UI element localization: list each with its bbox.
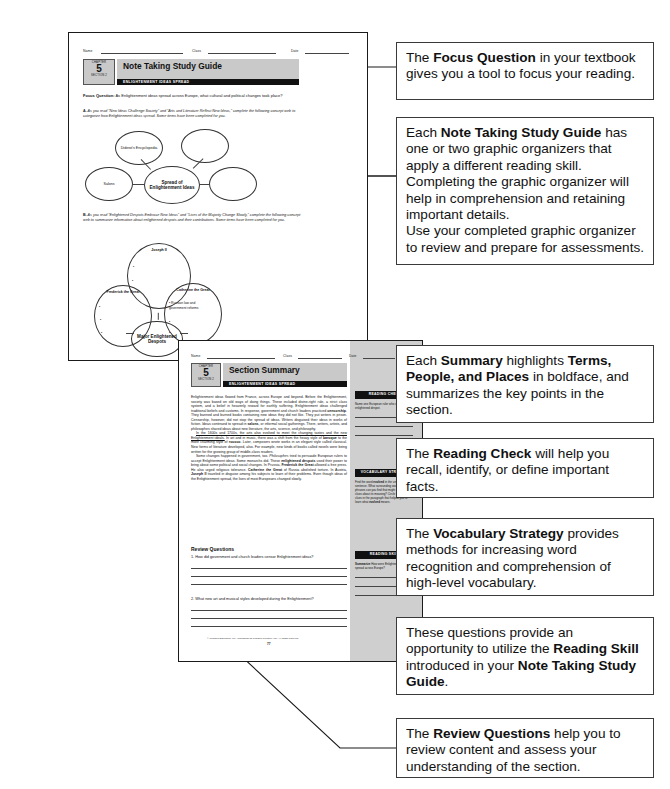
summary-paragraph: Some changes happened in government, too…	[191, 454, 347, 481]
note-taking-study-guide-page: Name Class Date CHAPTER 5 SECTION 2 Note…	[68, 32, 368, 361]
callout-text: The	[406, 726, 433, 741]
page-subtitle: ENLIGHTENMENT IDEAS SPREAD	[123, 80, 189, 84]
reading-check-callout: The Reading Check will help you recall, …	[396, 438, 654, 498]
callout-emphasis: Reading Skill	[553, 641, 638, 656]
focus-question-label: Focus Question:	[83, 93, 115, 98]
web-b-connector-top	[158, 313, 159, 320]
key-term: Frederick the Great	[281, 463, 313, 467]
chapter-number: 5	[84, 64, 114, 74]
date-label-2: Date	[349, 354, 357, 358]
date-blank-line-2	[363, 358, 395, 359]
callout-emphasis: Note Taking Study Guide	[441, 125, 602, 140]
answer-line[interactable]	[191, 568, 347, 569]
answer-line[interactable]	[191, 576, 347, 577]
answer-line[interactable]	[191, 626, 347, 627]
page-subtitle-2: ENLIGHTENMENT IDEAS SPREAD	[229, 382, 295, 386]
web-a-connector-3	[132, 184, 145, 185]
date-blank-line	[305, 53, 349, 54]
copyright-footer: © Pearson Education, Inc., publishing as…	[207, 637, 299, 640]
sidebar-term: evolved	[369, 500, 380, 504]
web-b-left-bullet-2: •	[100, 318, 101, 322]
key-term: rococo	[229, 440, 241, 444]
summary-paragraph: Enlightenment ideas flowed from France, …	[191, 395, 347, 431]
page-title: Note Taking Study Guide	[123, 61, 222, 71]
review-questions-heading: Review Questions	[191, 546, 234, 552]
callout-text: .	[445, 674, 449, 689]
callout-text: introduced in your	[406, 658, 518, 673]
review-questions-callout: The Review Questions help you to review …	[396, 718, 654, 778]
class-label: Class	[192, 49, 201, 53]
answer-line[interactable]	[191, 618, 347, 619]
part-a-letter: A.	[83, 109, 87, 113]
key-term: censorship	[327, 409, 346, 413]
summary-text: traveled in disguise among his subjects …	[191, 472, 347, 481]
section-summary-page: Name Class Date CHAPTER 5 SECTION 2 Sect…	[178, 340, 423, 662]
sidebar-answer-line[interactable]	[355, 435, 413, 436]
date-label: Date	[291, 49, 299, 53]
class-blank-line	[208, 53, 276, 54]
page-title-2: Section Summary	[229, 365, 300, 375]
part-b-letter: B.	[83, 213, 87, 217]
chapter-badge-2: CHAPTER 5 SECTION 2	[191, 363, 221, 387]
callout-emphasis: Focus Question	[433, 50, 536, 65]
name-blank-line	[101, 53, 183, 54]
part-a-instruction: A. As you read “New Ideas Challenge Soci…	[83, 109, 301, 119]
sidebar-answer-line[interactable]	[355, 426, 413, 427]
page-number: 77	[267, 642, 271, 646]
part-a-text: As you read “New Ideas Challenge Society…	[83, 109, 295, 118]
part-b-instruction: B. As you read “Enlightened Despots Embr…	[83, 213, 305, 223]
review-question-text: How did government and church leaders ce…	[195, 555, 313, 559]
summary-paragraph: In the 1600s and 1700s, the arts also ev…	[191, 431, 347, 454]
summary-text: Enlightenment ideas flowed from France, …	[191, 395, 347, 413]
web-a-node-4	[209, 167, 257, 201]
callout-text: The	[406, 50, 433, 65]
callout-emphasis: Vocabulary Strategy	[433, 526, 563, 541]
summary-text: Some changes happened in government, too…	[196, 454, 269, 458]
web-a-node-3: Salons	[85, 167, 133, 201]
summary-callout: Each Summary highlights Terms, People, a…	[396, 345, 654, 423]
key-term: Catherine the Great	[248, 468, 282, 472]
note-taking-study-guide-callout: Each Note Taking Study Guide has one or …	[396, 117, 654, 265]
section-word-2: SECTION 2	[192, 378, 220, 381]
chapter-badge: CHAPTER 5 SECTION 2	[83, 59, 115, 85]
page-title-bar-2: Section Summary ENLIGHTENMENT IDEAS SPRE…	[223, 363, 347, 387]
name-label: Name	[83, 49, 92, 53]
key-term: salons	[247, 422, 258, 426]
web-b-center: Major Enlightened Despots	[131, 321, 183, 357]
summary-text: of Russia abolished torture. In Austria,	[282, 468, 347, 472]
web-a-connector-4	[199, 184, 210, 185]
web-a-center: Spread of Enlightenment Ideas	[144, 166, 200, 204]
web-b-connector-left	[126, 333, 134, 334]
answer-line[interactable]	[191, 610, 347, 611]
page-subtitle-bar: ENLIGHTENMENT IDEAS SPREAD	[117, 79, 299, 85]
answer-line[interactable]	[191, 584, 347, 585]
web-b-left-bullet-1: •	[99, 305, 100, 309]
class-label-2: Class	[283, 354, 292, 358]
callout-emphasis: Summary	[441, 353, 503, 368]
callout-text: These questions provide an opportunity t…	[406, 625, 573, 656]
vocabulary-strategy-callout: The Vocabulary Strategy provides methods…	[396, 518, 654, 596]
callout-text: The	[406, 446, 433, 461]
focus-question-callout: The Focus Question in your textbook give…	[396, 42, 654, 100]
page-title-bar: Note Taking Study Guide ENLIGHTENMENT ID…	[117, 59, 299, 85]
key-term: enlightened despots	[281, 459, 315, 463]
web-b-top-bullet-1: •	[133, 265, 134, 269]
focus-question: Focus Question: As Enlightenment ideas s…	[83, 93, 301, 98]
web-b-top-bullet-2: •	[132, 279, 133, 283]
focus-question-text: As Enlightenment ideas spread across Eur…	[115, 93, 283, 98]
review-question: 2. What new art and musical styles devel…	[191, 597, 343, 602]
name-label-2: Name	[191, 354, 200, 358]
callout-emphasis: Reading Check	[433, 446, 531, 461]
web-b-right-bullet-text: • Russian law and government reforms	[169, 301, 213, 310]
web-b-right-bullet-label: Russian law and government reforms	[169, 301, 199, 310]
web-a-node-1: Diderot's Encyclopedia	[115, 131, 163, 165]
reading-skill-callout: These questions provide an opportunity t…	[396, 617, 654, 695]
callout-text: Each	[406, 353, 441, 368]
web-b-connector-right	[180, 333, 188, 334]
summary-body-text: Enlightenment ideas flowed from France, …	[191, 395, 347, 481]
section-word: SECTION 2	[84, 74, 114, 77]
key-term: Joseph II	[191, 472, 206, 476]
chapter-number-2: 5	[192, 368, 220, 378]
summary-text: Philosophes	[269, 454, 288, 458]
name-blank-line-2	[207, 358, 275, 359]
